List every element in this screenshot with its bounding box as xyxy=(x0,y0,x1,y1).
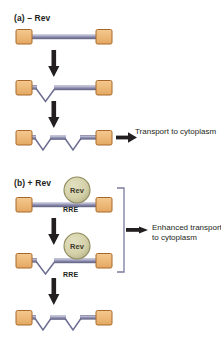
exon-box-right xyxy=(96,254,112,269)
intron-loop-1 xyxy=(35,260,56,274)
panel-b-transport-arrow xyxy=(126,227,148,234)
intron-loop-1 xyxy=(34,317,52,330)
panel-b-step-2: Rev xyxy=(16,233,112,274)
panel-b-arrow-1 xyxy=(48,218,59,245)
panel-a-arrow-2 xyxy=(48,101,59,128)
exon-box-left xyxy=(16,131,32,146)
panel-a-step-2 xyxy=(16,81,112,102)
panel-a-caption: Transport to cytoplasm xyxy=(135,127,216,137)
rev-protein-label: Rev xyxy=(70,242,85,251)
panel-b-caption-line-1: Enhanced transport xyxy=(152,223,221,233)
exon-box-left xyxy=(16,30,32,45)
exon-box-right xyxy=(96,30,112,45)
intron-loop-2 xyxy=(64,137,82,150)
panel-b-caption: Enhanced transport to cytoplasm xyxy=(152,223,221,243)
rre-label-step-1: RRE xyxy=(63,206,78,213)
panel-b-caption-line-2: to cytoplasm xyxy=(152,233,221,243)
panel-b-graphics: Rev Rev xyxy=(0,168,221,338)
exon-box-left xyxy=(16,254,32,269)
intron-loop-1 xyxy=(34,137,52,150)
panel-b-bracket xyxy=(117,188,124,272)
rre-label-step-2: RRE xyxy=(63,271,78,278)
exon-box-right xyxy=(96,81,112,96)
panel-a-transport-arrow xyxy=(116,132,137,142)
figure-rev-rna-transport: (a) – Rev xyxy=(0,0,221,338)
panel-b-step-3 xyxy=(16,311,112,331)
exon-box-right xyxy=(96,311,112,326)
exon-box-right xyxy=(96,198,112,213)
rna-highlight xyxy=(30,34,98,35)
exon-box-left xyxy=(16,198,32,213)
panel-b-arrow-2 xyxy=(48,278,59,305)
panel-a-arrow-1 xyxy=(48,50,59,77)
exon-box-right xyxy=(96,131,112,146)
exon-box-left xyxy=(16,81,32,96)
intron-loop-1 xyxy=(35,87,56,102)
intron-loop-2 xyxy=(64,317,82,330)
rev-protein-label: Rev xyxy=(70,186,85,195)
panel-a-step-1 xyxy=(16,30,112,45)
panel-a-step-3 xyxy=(16,131,112,151)
exon-box-left xyxy=(16,311,32,326)
